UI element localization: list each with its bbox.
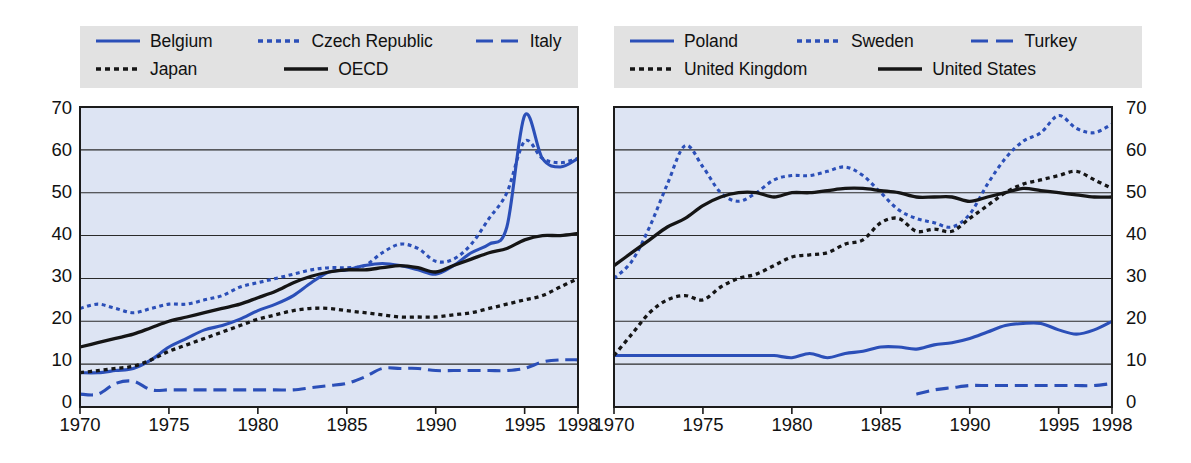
xtick-label-1985: 1985 xyxy=(849,414,913,436)
legend-label-united-states: United States xyxy=(932,59,1036,80)
legend-label-japan: Japan xyxy=(150,59,197,80)
legend-label-czech-republic: Czech Republic xyxy=(312,31,433,52)
plot-area-left xyxy=(80,107,578,407)
two-panel-line-chart-figure: Belgium Czech Republic Italy Japan xyxy=(0,0,1191,463)
xtick-label-1985: 1985 xyxy=(315,414,379,436)
ytick-label-30: 30 xyxy=(28,265,72,287)
solid-blue-line-key xyxy=(95,34,141,48)
solid-blue-line-key xyxy=(629,34,675,48)
legend-left-row-2: Japan OECD xyxy=(95,58,388,80)
dotted-black-line-key xyxy=(629,62,675,76)
legend-item-turkey: Turkey xyxy=(970,31,1077,52)
legend-label-belgium: Belgium xyxy=(150,31,213,52)
dashed-blue-line-key xyxy=(970,34,1016,48)
ytick-label-0: 0 xyxy=(1126,391,1170,413)
legend-label-oecd: OECD xyxy=(338,59,388,80)
legend-item-oecd: OECD xyxy=(283,59,388,80)
dashed-blue-line-key xyxy=(475,34,521,48)
legend-label-united-kingdom: United Kingdom xyxy=(684,59,807,80)
legend-item-sweden: Sweden xyxy=(796,31,914,52)
ytick-label-70: 70 xyxy=(28,97,72,119)
xtick-label-1975: 1975 xyxy=(671,414,735,436)
chart-panel-right: Poland Sweden Turkey United Kingdom xyxy=(596,0,1191,463)
plot-area-right xyxy=(614,107,1112,407)
xtick-label-1998: 1998 xyxy=(1080,414,1144,436)
legend-item-italy: Italy xyxy=(475,31,562,52)
ytick-label-60: 60 xyxy=(1126,139,1170,161)
legend-label-poland: Poland xyxy=(684,31,738,52)
legend-item-belgium: Belgium xyxy=(95,31,213,52)
legend-item-japan: Japan xyxy=(95,59,197,80)
plot-background xyxy=(80,107,578,407)
solid-black-line-key xyxy=(283,62,329,76)
legend-label-italy: Italy xyxy=(530,31,562,52)
ytick-label-70: 70 xyxy=(1126,97,1170,119)
xtick-label-1970: 1970 xyxy=(582,414,646,436)
ytick-label-60: 60 xyxy=(28,139,72,161)
dotted-blue-line-key xyxy=(796,34,842,48)
legend-label-turkey: Turkey xyxy=(1025,31,1077,52)
dotted-black-line-key xyxy=(95,62,141,76)
ytick-label-20: 20 xyxy=(28,307,72,329)
legend-item-united-states: United States xyxy=(877,59,1036,80)
solid-black-line-key xyxy=(877,62,923,76)
legend-label-sweden: Sweden xyxy=(851,31,914,52)
ytick-label-50: 50 xyxy=(28,181,72,203)
xtick-label-1990: 1990 xyxy=(404,414,468,436)
ytick-label-30: 30 xyxy=(1126,265,1170,287)
legend-left-row-1: Belgium Czech Republic Italy xyxy=(95,30,561,52)
ytick-label-10: 10 xyxy=(28,349,72,371)
ytick-label-10: 10 xyxy=(1126,349,1170,371)
ytick-label-50: 50 xyxy=(1126,181,1170,203)
xtick-label-1980: 1980 xyxy=(760,414,824,436)
dotted-blue-line-key xyxy=(257,34,303,48)
ytick-label-40: 40 xyxy=(28,223,72,245)
legend-item-united-kingdom: United Kingdom xyxy=(629,59,807,80)
legend-right-row-2: United Kingdom United States xyxy=(629,58,1036,80)
ytick-label-40: 40 xyxy=(1126,223,1170,245)
xtick-label-1980: 1980 xyxy=(226,414,290,436)
legend-item-czech-republic: Czech Republic xyxy=(257,31,433,52)
legend-item-poland: Poland xyxy=(629,31,738,52)
plot-background xyxy=(614,107,1112,407)
xtick-label-1970: 1970 xyxy=(48,414,112,436)
xtick-label-1975: 1975 xyxy=(137,414,201,436)
ytick-label-0: 0 xyxy=(28,391,72,413)
legend-right-row-1: Poland Sweden Turkey xyxy=(629,30,1077,52)
xtick-label-1990: 1990 xyxy=(938,414,1002,436)
chart-panel-left: Belgium Czech Republic Italy Japan xyxy=(0,0,596,463)
ytick-label-20: 20 xyxy=(1126,307,1170,329)
